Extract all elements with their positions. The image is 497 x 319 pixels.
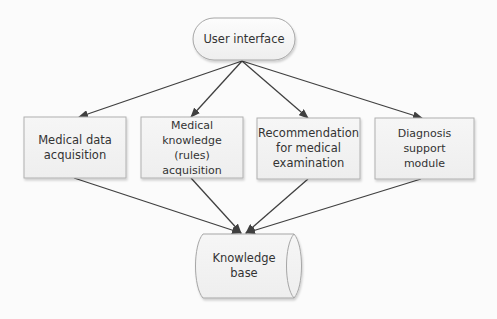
knowledge-acquisition-label-line2: (rules) acquisition: [145, 148, 239, 178]
knowledge-base-label: Knowledge base: [202, 251, 286, 281]
edge-recommendation-to-kb: [246, 179, 308, 233]
recommendation-label-line1: Recommendation: [258, 126, 359, 141]
diagnosis-label-line2: module: [404, 156, 445, 171]
user-interface-label: User interface: [203, 32, 284, 47]
edge-ui-to-diagnosis: [242, 61, 422, 118]
edges-ui-to-modules: [79, 61, 422, 118]
knowledge-base-node: Knowledge base: [198, 234, 290, 298]
knowledge-acquisition-node: Medical knowledge (rules) acquisition: [141, 117, 243, 178]
edges-modules-to-kb: [74, 178, 421, 233]
data-acquisition-label-line2: acquisition: [44, 148, 106, 163]
data-acquisition-node: Medical data acquisition: [24, 117, 126, 178]
edge-ui-to-data-acquisition: [79, 61, 242, 117]
diagnosis-label-line1: Diagnosis support: [379, 126, 470, 156]
recommendation-label-line2: for medical: [276, 141, 341, 156]
user-interface-node: User interface: [193, 18, 295, 60]
recommendation-label-line3: examination: [273, 156, 345, 171]
edge-ui-to-recommendation: [242, 61, 308, 118]
diagnosis-node: Diagnosis support module: [375, 118, 474, 179]
recommendation-node: Recommendation for medical examination: [257, 118, 360, 179]
edge-diagnosis-to-kb: [246, 179, 421, 233]
data-acquisition-label-line1: Medical data: [38, 133, 112, 148]
knowledge-acquisition-label-line1: Medical knowledge: [145, 118, 239, 148]
